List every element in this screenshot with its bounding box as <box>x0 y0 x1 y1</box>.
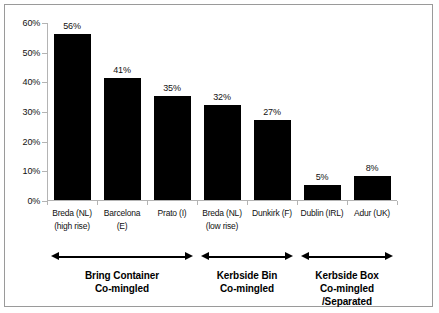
bar-value-label: 41% <box>104 65 141 75</box>
plot-area: 0%10%20%30%40%50%60% 56%41%35%32%27%5%8% <box>47 23 397 201</box>
group-label-line2: Co-mingled /Separated <box>301 282 393 308</box>
group-annotation-label: Bring ContainerCo-mingled <box>51 269 193 295</box>
bar: 35% <box>154 96 191 200</box>
bar: 5% <box>304 185 341 200</box>
bar-value-label: 8% <box>354 163 391 173</box>
arrow-head-left-icon <box>201 252 209 260</box>
double-arrow-icon <box>301 251 393 262</box>
arrow-line <box>57 256 187 258</box>
x-axis-tick <box>147 201 148 205</box>
x-axis-tick <box>197 201 198 205</box>
group-annotation: Kerbside BoxCo-mingled /Separated <box>301 251 393 308</box>
y-axis-tick-label: 60% <box>23 18 40 28</box>
category-label-line1: Breda (NL) <box>202 208 242 218</box>
x-axis-tick <box>297 201 298 205</box>
group-label-line1: Bring Container <box>85 270 159 281</box>
group-annotation: Bring ContainerCo-mingled <box>51 251 193 295</box>
category-label-line2: (E) <box>91 220 153 233</box>
y-axis-tick-label: 0% <box>27 196 40 206</box>
bar-value-label: 32% <box>204 92 241 102</box>
y-axis-tick <box>42 23 47 24</box>
group-annotation: Kerbside BinCo-mingled <box>201 251 293 295</box>
x-axis-tick <box>397 201 398 205</box>
group-label-line2: Co-mingled <box>201 282 293 295</box>
bar-value-label: 56% <box>54 21 91 31</box>
arrow-head-left-icon <box>51 252 59 260</box>
y-axis-line <box>47 23 48 201</box>
y-axis-tick-label: 40% <box>23 77 40 87</box>
bar-value-label: 35% <box>154 83 191 93</box>
x-axis-line <box>47 200 397 201</box>
y-axis-tick <box>42 142 47 143</box>
y-axis-tick <box>42 112 47 113</box>
bar: 8% <box>354 176 391 200</box>
bar-value-label: 27% <box>254 107 291 117</box>
category-label-line1: Adur (UK) <box>354 208 390 218</box>
y-axis-tick <box>42 53 47 54</box>
x-axis-tick <box>97 201 98 205</box>
category-label: Adur (UK) <box>341 207 403 220</box>
arrow-head-left-icon <box>301 252 309 260</box>
arrow-line <box>307 256 387 258</box>
y-axis-tick-label: 50% <box>23 48 40 58</box>
double-arrow-icon <box>51 251 193 262</box>
y-axis-tick-label: 30% <box>23 107 40 117</box>
group-annotation-label: Kerbside BinCo-mingled <box>201 269 293 295</box>
y-axis-tick-label: 20% <box>23 137 40 147</box>
x-axis-tick <box>247 201 248 205</box>
bar-value-label: 5% <box>304 172 341 182</box>
double-arrow-icon <box>201 251 293 262</box>
arrow-head-right-icon <box>385 252 393 260</box>
group-annotation-label: Kerbside BoxCo-mingled /Separated <box>301 269 393 308</box>
bar: 41% <box>104 78 141 200</box>
category-label-line1: Barcelona <box>104 208 140 218</box>
category-label-line1: Prato (I) <box>158 208 187 218</box>
y-axis-tick <box>42 82 47 83</box>
group-label-line1: Kerbside Box <box>315 270 378 281</box>
category-label-line1: Dublin (IRL) <box>301 208 344 218</box>
bar: 56% <box>54 34 91 200</box>
category-label-line2: (low rise) <box>191 220 253 233</box>
arrow-head-right-icon <box>285 252 293 260</box>
y-axis-tick <box>42 171 47 172</box>
x-axis-tick <box>347 201 348 205</box>
bar: 27% <box>254 120 291 200</box>
y-axis-tick-label: 10% <box>23 166 40 176</box>
arrow-head-right-icon <box>185 252 193 260</box>
chart-figure: 0%10%20%30%40%50%60% 56%41%35%32%27%5%8%… <box>4 4 433 307</box>
group-label-line1: Kerbside Bin <box>217 270 277 281</box>
bar: 32% <box>204 105 241 200</box>
group-label-line2: Co-mingled <box>51 282 193 295</box>
arrow-line <box>207 256 287 258</box>
x-axis-tick <box>47 201 48 205</box>
category-label-line1: Breda (NL) <box>52 208 92 218</box>
category-label-line1: Dunkirk (F) <box>252 208 292 218</box>
